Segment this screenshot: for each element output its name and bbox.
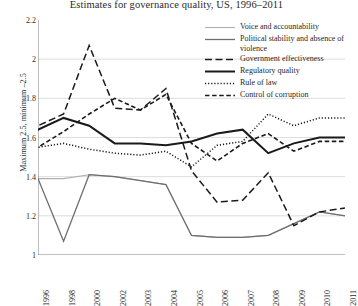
series-line-1 <box>38 175 345 242</box>
chart-legend: Voice and accountabilityPolitical stabil… <box>205 22 353 102</box>
legend-label: Control of corruption <box>240 90 308 100</box>
x-tick-label: 1996 <box>42 290 51 306</box>
y-axis-ticks: 2.221.81.61.41.21 <box>0 0 36 293</box>
series-line-3 <box>38 118 345 153</box>
x-tick-label: 2005 <box>196 290 205 306</box>
legend-item-4[interactable]: Rule of law <box>205 78 353 89</box>
legend-label: Government effectiveness <box>240 54 324 64</box>
x-tick-label: 1998 <box>68 290 77 306</box>
legend-swatch-icon <box>205 90 235 101</box>
series-line-0 <box>38 175 345 238</box>
x-tick-label: 2009 <box>298 290 307 306</box>
x-axis-ticks: 1996199820002002200320042005200620072008… <box>0 258 353 293</box>
legend-swatch-icon <box>205 22 235 33</box>
y-tick-label: 1.2 <box>2 211 36 220</box>
x-tick-label: 2006 <box>221 290 230 306</box>
x-tick-label: 2002 <box>119 290 128 306</box>
y-tick-label: 1.6 <box>2 133 36 142</box>
x-tick-label: 2004 <box>170 290 179 306</box>
legend-label: Political stability and absence of viole… <box>240 34 353 53</box>
y-tick-label: 1.4 <box>2 172 36 181</box>
legend-swatch-icon <box>205 78 235 89</box>
legend-item-0[interactable]: Voice and accountability <box>205 22 353 33</box>
y-tick-label: 2 <box>2 55 36 64</box>
x-tick-label: 2007 <box>247 290 256 306</box>
legend-label: Rule of law <box>240 78 277 88</box>
x-tick-label: 2010 <box>323 290 332 306</box>
x-tick-label: 2003 <box>144 290 153 306</box>
legend-label: Voice and accountability <box>240 22 319 32</box>
series-line-5 <box>38 94 345 161</box>
legend-item-3[interactable]: Regulatory quality <box>205 66 353 77</box>
legend-swatch-icon <box>205 66 235 77</box>
x-tick-label: 2000 <box>93 290 102 306</box>
legend-swatch-icon <box>205 34 235 45</box>
chart-title: Estimates for governance quality, US, 19… <box>0 0 353 10</box>
x-tick-label: 2011 <box>349 290 358 306</box>
legend-item-1[interactable]: Political stability and absence of viole… <box>205 34 353 53</box>
y-tick-label: 1.8 <box>2 94 36 103</box>
y-tick-label: 2.2 <box>2 16 36 25</box>
legend-swatch-icon <box>205 54 235 65</box>
legend-item-5[interactable]: Control of corruption <box>205 90 353 101</box>
legend-label: Regulatory quality <box>240 66 300 76</box>
x-tick-label: 2008 <box>272 290 281 306</box>
legend-item-2[interactable]: Government effectiveness <box>205 54 353 65</box>
